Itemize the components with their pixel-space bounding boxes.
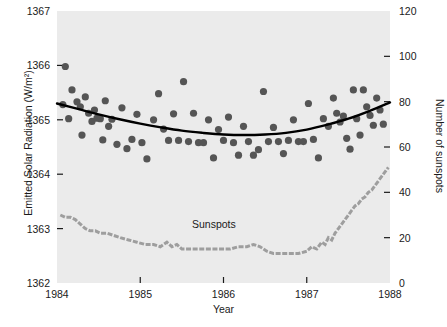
x-tick-label-1986: 1986 — [199, 289, 249, 300]
scatter-point — [245, 138, 252, 145]
scatter-point — [333, 110, 340, 117]
scatter-point — [290, 116, 297, 123]
scatter-point — [143, 155, 150, 162]
y-axis-right-title: Number of sunspots — [434, 66, 446, 226]
scatter-point — [170, 110, 177, 117]
y-tick-label-right-60: 60 — [399, 142, 429, 153]
scatter-point — [235, 152, 242, 159]
scatter-point — [265, 138, 272, 145]
sunspots-series-annotation: Sunspots — [192, 218, 236, 230]
scatter-point — [82, 93, 89, 100]
scatter-point — [210, 154, 217, 161]
scatter-point — [343, 135, 350, 142]
scatter-point — [133, 111, 140, 118]
scatter-point — [99, 136, 106, 143]
solar-radiation-scatter — [59, 63, 387, 163]
scatter-point — [62, 63, 69, 70]
scatter-point — [373, 94, 380, 101]
scatter-point — [123, 145, 130, 152]
scatter-point — [346, 146, 353, 153]
y-tick-label-right-40: 40 — [399, 187, 429, 198]
scatter-point — [200, 139, 207, 146]
scatter-point — [118, 104, 125, 111]
scatter-point — [300, 138, 307, 145]
scatter-point — [78, 131, 85, 138]
scatter-point — [225, 113, 232, 120]
x-axis-title: Year — [0, 303, 447, 315]
scatter-point — [260, 88, 267, 95]
y-tick-label-left-1367: 1367 — [12, 6, 50, 17]
scatter-point — [270, 124, 277, 131]
scatter-point — [68, 86, 75, 93]
y-tick-label-right-80: 80 — [399, 97, 429, 108]
scatter-point — [330, 94, 337, 101]
y-tick-label-right-0: 0 — [399, 278, 429, 289]
y-tick-label-right-120: 120 — [399, 6, 429, 17]
scatter-point — [65, 115, 72, 122]
scatter-point — [360, 86, 367, 93]
solar-radiation-sunspots-chart: 136213631364136513661367 020406080100120… — [0, 0, 447, 327]
sunspots-line — [60, 167, 388, 253]
scatter-point — [285, 137, 292, 144]
scatter-point — [138, 139, 145, 146]
scatter-point — [380, 121, 387, 128]
scatter-point — [105, 123, 112, 130]
scatter-point — [128, 136, 135, 143]
scatter-point — [350, 86, 357, 93]
scatter-point — [175, 137, 182, 144]
scatter-point — [215, 126, 222, 133]
x-tick-label-1988: 1988 — [365, 289, 415, 300]
scatter-point — [102, 97, 109, 104]
scatter-point — [315, 154, 322, 161]
y-tick-label-left-1362: 1362 — [12, 278, 50, 289]
scatter-point — [155, 90, 162, 97]
chart-canvas — [0, 0, 447, 327]
scatter-point — [363, 103, 370, 110]
scatter-point — [310, 136, 317, 143]
scatter-point — [113, 141, 120, 148]
x-tick-label-1984: 1984 — [32, 289, 82, 300]
scatter-point — [250, 152, 257, 159]
scatter-point — [185, 138, 192, 145]
y-axis-left-title: Emitted Solar Radiation (W/m²) — [22, 63, 34, 223]
scatter-point — [240, 123, 247, 130]
x-tick-label-1985: 1985 — [115, 289, 165, 300]
y-tick-label-right-100: 100 — [399, 51, 429, 62]
y-tick-label-right-20: 20 — [399, 233, 429, 244]
x-tick-label-1987: 1987 — [282, 289, 332, 300]
scatter-point — [180, 78, 187, 85]
scatter-point — [255, 146, 262, 153]
scatter-point — [230, 139, 237, 146]
scatter-point — [356, 131, 363, 138]
scatter-point — [165, 137, 172, 144]
scatter-point — [220, 137, 227, 144]
scatter-point — [370, 122, 377, 129]
scatter-point — [320, 115, 327, 122]
scatter-point — [150, 116, 157, 123]
scatter-point — [275, 138, 282, 145]
scatter-point — [205, 116, 212, 123]
scatter-point — [305, 100, 312, 107]
scatter-point — [190, 110, 197, 117]
scatter-point — [280, 150, 287, 157]
y-tick-label-left-1363: 1363 — [12, 224, 50, 235]
